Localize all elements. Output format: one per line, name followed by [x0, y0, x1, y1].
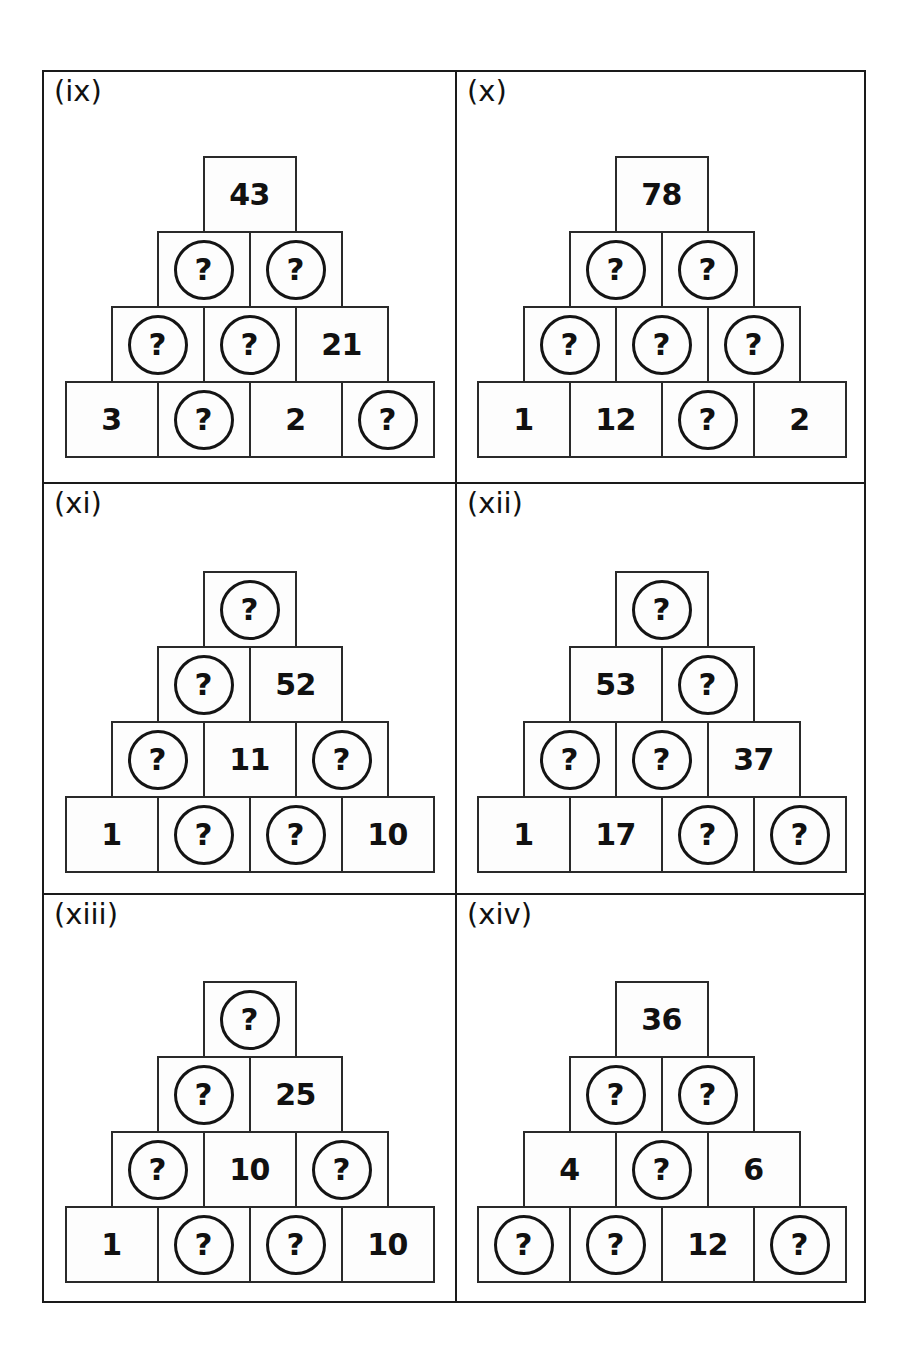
pyramid-cell[interactable]: ?: [111, 306, 205, 383]
pyramid-cell[interactable]: 25: [249, 1056, 343, 1133]
pyramid-cell[interactable]: ?: [615, 721, 709, 798]
pyramid-cell[interactable]: 78: [615, 156, 709, 233]
pyramid-cell[interactable]: 17: [569, 796, 663, 873]
pyramid-row: 1 ? ? 10: [65, 796, 435, 873]
pyramid-row: ? 10 ?: [111, 1131, 389, 1208]
pyramid-cell[interactable]: ?: [111, 721, 205, 798]
pyramid-cell[interactable]: ?: [615, 306, 709, 383]
pyramid-cell[interactable]: ?: [157, 1056, 251, 1133]
cell-value: ?: [607, 1229, 625, 1260]
cell-value: 10: [367, 1230, 408, 1260]
pyramid-cell[interactable]: 36: [615, 981, 709, 1058]
pyramid-cell[interactable]: 53: [569, 646, 663, 723]
pyramid-cell[interactable]: ?: [661, 381, 755, 458]
pyramid-cell[interactable]: 6: [707, 1131, 801, 1208]
pyramid-row: ? ? 21: [111, 306, 389, 383]
pyramid-cell[interactable]: ?: [707, 306, 801, 383]
pyramid-cell[interactable]: ?: [249, 1206, 343, 1283]
puzzle-panel-xii: (xii) ? 53 ? ? ? 37 1 17 ? ?: [457, 484, 866, 895]
pyramid-puzzle-sheet: (ix) 43 ? ? ? ? 21 3 ? 2 ? (x): [42, 70, 866, 1303]
question-mark-icon: ?: [220, 315, 280, 375]
pyramid-cell[interactable]: ?: [753, 1206, 847, 1283]
pyramid-cell[interactable]: ?: [249, 231, 343, 308]
question-mark-icon: ?: [632, 730, 692, 790]
question-mark-icon: ?: [632, 580, 692, 640]
panel-label: (xiv): [467, 899, 532, 931]
pyramid-cell[interactable]: 3: [65, 381, 159, 458]
pyramid-cell[interactable]: ?: [295, 721, 389, 798]
cell-value: ?: [699, 404, 717, 435]
pyramid-cell[interactable]: ?: [157, 231, 251, 308]
pyramid-row: ? 25: [157, 1056, 343, 1133]
pyramid-cell[interactable]: ?: [661, 1056, 755, 1133]
pyramid-row: 1 ? ? 10: [65, 1206, 435, 1283]
pyramid-cell[interactable]: 2: [753, 381, 847, 458]
cell-value: ?: [241, 329, 259, 360]
question-mark-icon: ?: [724, 315, 784, 375]
pyramid-cell[interactable]: ?: [157, 796, 251, 873]
pyramid-cell[interactable]: ?: [111, 1131, 205, 1208]
question-mark-icon: ?: [128, 1140, 188, 1200]
pyramid-cell[interactable]: 1: [477, 796, 571, 873]
pyramid-cell[interactable]: 4: [523, 1131, 617, 1208]
cell-value: 3: [101, 405, 121, 435]
pyramid-cell[interactable]: 12: [661, 1206, 755, 1283]
pyramid-cell[interactable]: ?: [615, 1131, 709, 1208]
question-mark-icon: ?: [266, 240, 326, 300]
pyramid-cell[interactable]: ?: [203, 981, 297, 1058]
pyramid-cell[interactable]: ?: [569, 231, 663, 308]
pyramid-cell[interactable]: 10: [341, 1206, 435, 1283]
pyramid-cell[interactable]: 21: [295, 306, 389, 383]
question-mark-icon: ?: [174, 655, 234, 715]
cell-value: ?: [607, 254, 625, 285]
panel-label: (ix): [54, 76, 102, 108]
pyramid-cell[interactable]: 10: [203, 1131, 297, 1208]
cell-value: ?: [333, 744, 351, 775]
pyramid-row: ?: [203, 571, 297, 648]
pyramid-cell[interactable]: ?: [569, 1056, 663, 1133]
cell-value: ?: [195, 819, 213, 850]
panel-label: (xii): [467, 488, 523, 520]
cell-value: 78: [641, 180, 682, 210]
pyramid-cell[interactable]: ?: [157, 381, 251, 458]
pyramid-cell[interactable]: ?: [295, 1131, 389, 1208]
cell-value: 1: [101, 1230, 121, 1260]
pyramid-cell[interactable]: 52: [249, 646, 343, 723]
pyramid-cell[interactable]: ?: [523, 306, 617, 383]
cell-value: ?: [561, 329, 579, 360]
pyramid-cell[interactable]: 1: [477, 381, 571, 458]
cell-value: 2: [285, 405, 305, 435]
pyramid-cell[interactable]: 37: [707, 721, 801, 798]
question-mark-icon: ?: [678, 805, 738, 865]
pyramid-cell[interactable]: ?: [249, 796, 343, 873]
pyramid-cell[interactable]: ?: [157, 646, 251, 723]
pyramid-cell[interactable]: 12: [569, 381, 663, 458]
pyramid-cell[interactable]: ?: [157, 1206, 251, 1283]
pyramid-cell[interactable]: 10: [341, 796, 435, 873]
pyramid-cell[interactable]: ?: [615, 571, 709, 648]
pyramid-cell[interactable]: ?: [661, 231, 755, 308]
question-mark-icon: ?: [174, 1215, 234, 1275]
cell-value: ?: [333, 1154, 351, 1185]
pyramid-cell[interactable]: ?: [753, 796, 847, 873]
pyramid-cell[interactable]: 11: [203, 721, 297, 798]
pyramid-row: 3 ? 2 ?: [65, 381, 435, 458]
pyramid-cell[interactable]: 43: [203, 156, 297, 233]
pyramid-row: ? ? 37: [523, 721, 801, 798]
pyramid-cell[interactable]: ?: [203, 571, 297, 648]
pyramid-cell[interactable]: 1: [65, 1206, 159, 1283]
pyramid-cell[interactable]: ?: [523, 721, 617, 798]
pyramid-cell[interactable]: ?: [477, 1206, 571, 1283]
pyramid-cell[interactable]: 1: [65, 796, 159, 873]
pyramid-cell[interactable]: ?: [661, 796, 755, 873]
pyramid-cell[interactable]: ?: [661, 646, 755, 723]
pyramid-row: 1 12 ? 2: [477, 381, 847, 458]
pyramid-cell[interactable]: ?: [341, 381, 435, 458]
pyramid-cell[interactable]: ?: [203, 306, 297, 383]
pyramid-row: 43: [203, 156, 297, 233]
question-mark-icon: ?: [586, 240, 646, 300]
pyramid-cell[interactable]: 2: [249, 381, 343, 458]
pyramid-cell[interactable]: ?: [569, 1206, 663, 1283]
cell-value: ?: [241, 594, 259, 625]
cell-value: 10: [229, 1155, 270, 1185]
